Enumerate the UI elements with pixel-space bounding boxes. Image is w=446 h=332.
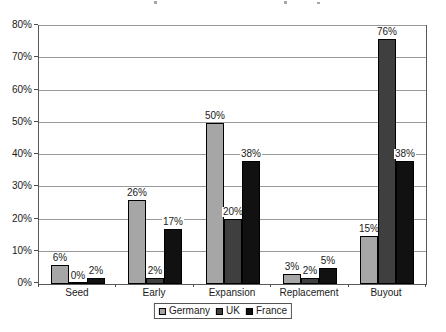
cropped-title-artifact bbox=[317, 2, 320, 4]
y-axis-tick-label: 20% bbox=[2, 213, 32, 224]
cropped-title-artifact bbox=[284, 1, 287, 4]
bar-uk-expansion bbox=[224, 219, 242, 284]
bar-france-seed bbox=[87, 278, 105, 284]
bar-germany-buyout bbox=[360, 236, 378, 284]
bar-value-label: 76% bbox=[376, 27, 398, 37]
plot-area: 6%0%2%26%2%17%50%20%38%3%2%5%15%76%38% bbox=[38, 25, 427, 285]
bar-value-label: 3% bbox=[284, 262, 300, 272]
category-label-seed: Seed bbox=[65, 287, 88, 298]
legend-label: Germany bbox=[169, 306, 210, 316]
bar-uk-seed bbox=[69, 282, 87, 284]
gridline-50% bbox=[39, 122, 426, 123]
legend-swatch-france bbox=[246, 308, 253, 315]
bar-value-label: 26% bbox=[126, 188, 148, 198]
legend-swatch-germany bbox=[159, 308, 166, 315]
bar-germany-seed bbox=[51, 265, 69, 284]
legend: GermanyUKFrance bbox=[154, 303, 292, 319]
x-axis-tick-mark bbox=[193, 284, 194, 287]
y-axis-tick-label: 30% bbox=[2, 180, 32, 191]
y-axis-tick-label: 70% bbox=[2, 51, 32, 62]
bar-value-label: 20% bbox=[222, 207, 244, 217]
y-axis-tick-mark bbox=[34, 56, 38, 57]
y-axis-tick-mark bbox=[34, 218, 38, 219]
x-axis-tick-mark bbox=[425, 284, 426, 287]
bar-france-early bbox=[164, 229, 182, 284]
category-label-replacement: Replacement bbox=[280, 287, 339, 298]
y-axis-tick-label: 80% bbox=[2, 19, 32, 30]
gridline-80% bbox=[39, 25, 426, 26]
legend-item-france: France bbox=[246, 306, 287, 316]
bar-germany-early bbox=[128, 200, 146, 284]
bar-value-label: 2% bbox=[147, 266, 163, 276]
clustered-bar-chart: 6%0%2%26%2%17%50%20%38%3%2%5%15%76%38% 0… bbox=[0, 0, 446, 332]
x-axis-tick-mark bbox=[115, 284, 116, 287]
bar-france-replacement bbox=[319, 268, 337, 284]
gridline-70% bbox=[39, 57, 426, 58]
y-axis-tick-mark bbox=[34, 185, 38, 186]
bar-value-label: 2% bbox=[88, 266, 104, 276]
category-label-early: Early bbox=[143, 287, 166, 298]
y-axis-tick-mark bbox=[34, 153, 38, 154]
bar-france-expansion bbox=[242, 161, 260, 284]
category-label-expansion: Expansion bbox=[209, 287, 256, 298]
legend-swatch-uk bbox=[216, 308, 223, 315]
cropped-title-artifact bbox=[154, 1, 157, 4]
bar-value-label: 17% bbox=[162, 217, 184, 227]
bar-value-label: 38% bbox=[240, 149, 262, 159]
bar-value-label: 38% bbox=[394, 149, 416, 159]
legend-item-germany: Germany bbox=[159, 306, 210, 316]
bar-value-label: 15% bbox=[358, 224, 380, 234]
x-axis-tick-mark bbox=[270, 284, 271, 287]
y-axis-tick-mark bbox=[34, 250, 38, 251]
legend-item-uk: UK bbox=[216, 306, 240, 316]
y-axis-tick-label: 0% bbox=[2, 277, 32, 288]
bar-value-label: 0% bbox=[70, 271, 86, 281]
x-axis-tick-mark bbox=[348, 284, 349, 287]
y-axis-tick-mark bbox=[34, 121, 38, 122]
y-axis-tick-label: 40% bbox=[2, 148, 32, 159]
bar-germany-replacement bbox=[283, 274, 301, 284]
y-axis-tick-mark bbox=[34, 89, 38, 90]
y-axis-tick-label: 50% bbox=[2, 116, 32, 127]
bar-uk-buyout bbox=[378, 39, 396, 284]
gridline-40% bbox=[39, 154, 426, 155]
y-axis-tick-mark bbox=[34, 282, 38, 283]
y-axis-tick-label: 10% bbox=[2, 245, 32, 256]
bar-value-label: 5% bbox=[320, 256, 336, 266]
bar-value-label: 6% bbox=[52, 253, 68, 263]
x-axis-tick-mark bbox=[38, 284, 39, 287]
legend-label: France bbox=[256, 306, 287, 316]
bar-value-label: 50% bbox=[204, 111, 226, 121]
bar-value-label: 2% bbox=[302, 266, 318, 276]
bar-uk-early bbox=[146, 278, 164, 284]
bar-germany-expansion bbox=[206, 123, 224, 284]
category-label-buyout: Buyout bbox=[370, 287, 401, 298]
gridline-60% bbox=[39, 90, 426, 91]
y-axis-tick-mark bbox=[34, 24, 38, 25]
y-axis-tick-label: 60% bbox=[2, 84, 32, 95]
legend-label: UK bbox=[226, 306, 240, 316]
bar-uk-replacement bbox=[301, 278, 319, 284]
bar-france-buyout bbox=[396, 161, 414, 284]
gridline-30% bbox=[39, 186, 426, 187]
